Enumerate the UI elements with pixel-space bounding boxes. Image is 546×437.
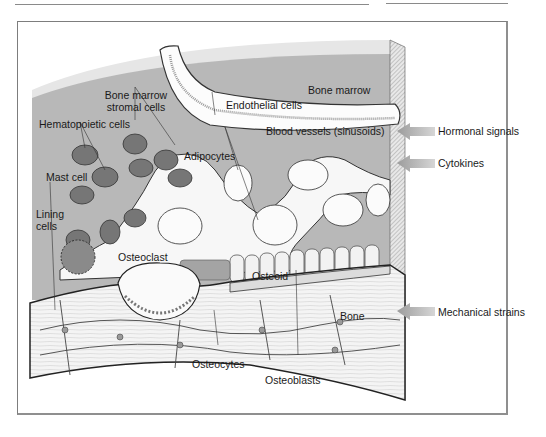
label-osteocytes: Osteocytes — [192, 358, 245, 370]
label-bone-marrow-stromal-cells: Bone marrow stromal cells — [98, 89, 174, 113]
label-lining-cells: Lining cells — [36, 208, 64, 232]
label-cytokines: Cytokines — [438, 157, 484, 169]
label-osteoid: Osteoid — [252, 270, 288, 282]
label-bone: Bone — [340, 310, 365, 322]
label-mechanical-strains: Mechanical strains — [438, 306, 525, 318]
label-blood-vessels: Blood vessels (sinusoids) — [266, 125, 384, 137]
label-osteoblasts: Osteoblasts — [265, 374, 320, 386]
mast-cell — [61, 240, 95, 274]
label-mast-cell: Mast cell — [46, 171, 87, 183]
label-adipocytes: Adipocytes — [184, 150, 235, 162]
label-bone-marrow: Bone marrow — [308, 84, 370, 96]
label-endothelial-cells: Endothelial cells — [226, 99, 302, 111]
bone-microenvironment-illustration — [0, 0, 546, 437]
label-hormonal-signals: Hormonal signals — [438, 125, 519, 137]
label-hematopoietic-cells: Hematopoietic cells — [39, 118, 130, 130]
label-osteoclast: Osteoclast — [118, 251, 168, 263]
